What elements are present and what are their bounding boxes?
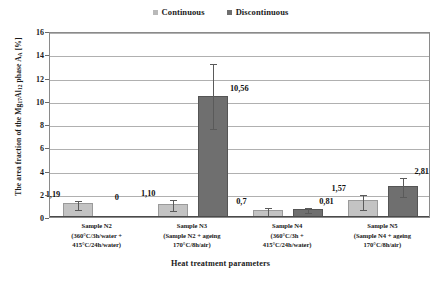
y-tick-mark	[45, 79, 49, 80]
bar-value-label: 0,81	[319, 197, 334, 206]
x-category-line: Sample N3	[144, 221, 239, 231]
error-bar	[363, 195, 364, 210]
error-cap-lower	[360, 210, 367, 211]
error-cap-lower	[75, 210, 82, 211]
y-axis-title: The area fraction of the Mg17Al12 phase …	[14, 21, 23, 213]
error-cap-lower	[170, 211, 177, 212]
x-axis-categories: Sample N2(360°C/3h/water +415°C/24h/wate…	[49, 221, 430, 257]
x-category-line: (Sample N2 + ageing	[144, 231, 239, 241]
x-category-line: Sample N5	[335, 221, 430, 231]
error-bar	[268, 208, 269, 216]
x-category-line: (360°C/3h +	[240, 231, 335, 241]
bar-chart: Continuous Discontinuous The area fracti…	[0, 0, 441, 284]
bar-group: 1,1010,56	[145, 33, 240, 217]
legend-item-continuous[interactable]: Continuous	[153, 8, 205, 17]
x-category-label: Sample N4(360°C/3h +415°C/24h/water)	[240, 221, 335, 250]
y-tick-mark	[45, 32, 49, 33]
error-cap-upper	[360, 195, 367, 196]
x-category-line: 415°C/24h/water)	[49, 240, 144, 250]
x-category-label: Sample N2(360°C/3h/water +415°C/24h/wate…	[49, 221, 144, 250]
bar-group: 1,572,81	[336, 33, 431, 217]
y-tick-mark	[45, 55, 49, 56]
error-cap-upper	[170, 200, 177, 201]
y-axis-title-sub2: 12	[17, 85, 23, 91]
bar-value-label: 0,7	[236, 197, 246, 206]
error-cap-upper	[305, 208, 312, 209]
bar-value-label: 0	[115, 193, 119, 202]
y-tick-label: 6	[20, 144, 44, 153]
y-tick-mark	[45, 195, 49, 196]
y-tick-mark	[45, 102, 49, 103]
x-category-label: Sample N5(Sample N4 + ageing170°C/8h/air…	[335, 221, 430, 250]
y-tick-mark	[45, 148, 49, 149]
x-category-line: (Sample N4 + ageing	[335, 231, 430, 241]
y-tick-label: 12	[20, 74, 44, 83]
error-bar	[403, 178, 404, 197]
y-tick-mark	[45, 125, 49, 126]
y-tick-mark	[45, 218, 49, 219]
y-tick-label: 14	[20, 51, 44, 60]
error-bar	[173, 200, 174, 211]
x-category-line: 170°C/8h/air)	[144, 240, 239, 250]
y-tick-label: 0	[20, 214, 44, 223]
x-category-label: Sample N3(Sample N2 + ageing170°C/8h/air…	[144, 221, 239, 250]
error-cap-lower	[305, 213, 312, 214]
chart-legend: Continuous Discontinuous	[0, 8, 441, 17]
x-category-line: 170°C/8h/air)	[335, 240, 430, 250]
y-tick-label: 8	[20, 121, 44, 130]
bar-value-label: 2,81	[414, 167, 429, 176]
bar-value-label: 1,10	[141, 189, 156, 198]
bar-group: 0,70,81	[241, 33, 336, 217]
legend-item-discontinuous[interactable]: Discontinuous	[227, 8, 289, 17]
error-cap-lower	[210, 129, 217, 130]
plot-area: 1,1901,1010,560,70,811,572,81	[49, 32, 430, 218]
error-cap-upper	[265, 208, 272, 209]
x-axis-line	[50, 216, 429, 217]
discontinuous-swatch-icon	[227, 10, 232, 15]
continuous-swatch-icon	[153, 10, 158, 15]
x-category-line: Sample N4	[240, 221, 335, 231]
y-tick-label: 2	[20, 190, 44, 199]
y-tick-label: 16	[20, 28, 44, 37]
error-cap-upper	[400, 178, 407, 179]
legend-label-discontinuous: Discontinuous	[236, 8, 289, 17]
bar-group: 1,190	[50, 33, 145, 217]
y-tick-label: 4	[20, 167, 44, 176]
legend-label-continuous: Continuous	[162, 8, 205, 17]
x-axis-title: Heat treatment parameters	[0, 259, 441, 268]
y-tick-label: 10	[20, 97, 44, 106]
bar-value-label: 1,57	[331, 184, 346, 193]
y-tick-mark	[45, 172, 49, 173]
bar-groups: 1,1901,1010,560,70,811,572,81	[50, 33, 429, 217]
error-cap-lower	[400, 197, 407, 198]
error-bar	[78, 201, 79, 211]
x-category-line: Sample N2	[49, 221, 144, 231]
x-category-line: 415°C/24h/water)	[240, 240, 335, 250]
x-category-line: (360°C/3h/water +	[49, 231, 144, 241]
error-cap-upper	[210, 64, 217, 65]
error-cap-upper	[75, 201, 82, 202]
error-bar	[213, 64, 214, 130]
